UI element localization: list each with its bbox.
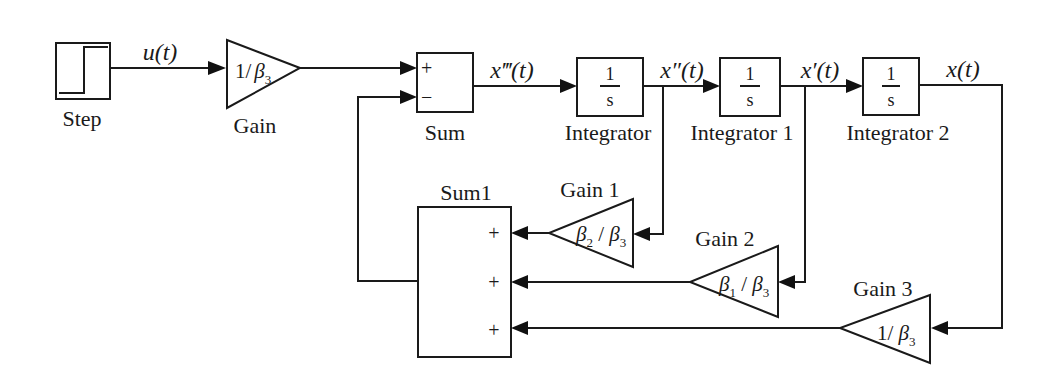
sum1-block[interactable]: Sum1 + + + bbox=[418, 180, 511, 357]
integrator-den: s bbox=[606, 90, 613, 110]
arrowhead-icon bbox=[511, 275, 528, 289]
wire-gain-to-sum bbox=[300, 61, 417, 75]
signal-x3-label: x‴(t) bbox=[489, 57, 533, 83]
signal-u: u(t) bbox=[110, 39, 226, 75]
gain1-value: β2 / β3 bbox=[575, 222, 626, 250]
sum-label: Sum bbox=[425, 120, 465, 145]
signal-u-label: u(t) bbox=[143, 39, 178, 65]
integrator1-den: s bbox=[746, 90, 753, 110]
arrowhead-icon bbox=[931, 321, 948, 335]
arrowhead-icon bbox=[400, 90, 417, 104]
integrator2-den: s bbox=[887, 90, 894, 110]
arrowhead-icon bbox=[846, 79, 863, 93]
integrator1-block[interactable]: 1 s Integrator 1 bbox=[690, 58, 793, 145]
integrator-label: Integrator bbox=[565, 120, 652, 145]
integrator2-label: Integrator 2 bbox=[846, 120, 949, 145]
integrator-num: 1 bbox=[606, 64, 615, 84]
arrowhead-icon bbox=[208, 61, 226, 75]
block-diagram: Step u(t) 1/β3 Gain + − Sum x‴(t) bbox=[0, 0, 1056, 383]
integrator2-num: 1 bbox=[887, 64, 896, 84]
signal-x2: x″(t) bbox=[633, 57, 720, 241]
wire-feedback-to-sum bbox=[358, 90, 418, 281]
arrowhead-icon bbox=[400, 61, 417, 75]
sum-block[interactable]: + − Sum bbox=[417, 53, 473, 145]
signal-x2-label: x″(t) bbox=[659, 57, 703, 83]
gain3-label: Gain 3 bbox=[853, 276, 912, 301]
arrowhead-icon bbox=[511, 321, 528, 335]
gain1-label: Gain 1 bbox=[560, 177, 619, 202]
signal-x1: x′(t) bbox=[778, 57, 863, 289]
signal-x3: x‴(t) bbox=[473, 57, 577, 93]
integrator-block[interactable]: 1 s Integrator bbox=[565, 58, 652, 145]
arrowhead-icon bbox=[633, 227, 650, 241]
arrowhead-icon bbox=[778, 275, 795, 289]
signal-x1-label: x′(t) bbox=[800, 57, 840, 83]
sum1-sign-3: + bbox=[488, 319, 499, 341]
gain2-label: Gain 2 bbox=[695, 226, 754, 251]
integrator1-num: 1 bbox=[746, 64, 755, 84]
signal-x0: x(t) bbox=[919, 56, 1002, 335]
integrator1-label: Integrator 1 bbox=[690, 120, 793, 145]
gain2-block[interactable]: Gain 2 β1 / β3 bbox=[511, 226, 778, 317]
gain2-value: β1 / β3 bbox=[718, 272, 769, 300]
sum-sign-minus: − bbox=[421, 86, 432, 108]
gain2-triangle[interactable] bbox=[690, 246, 778, 317]
gain1-block[interactable]: Gain 1 β2 / β3 bbox=[511, 177, 633, 267]
sum1-sign-2: + bbox=[488, 271, 499, 293]
arrowhead-icon bbox=[560, 79, 577, 93]
integrator2-block[interactable]: 1 s Integrator 2 bbox=[846, 58, 949, 145]
step-label: Step bbox=[62, 106, 101, 131]
arrowhead-icon bbox=[703, 79, 720, 93]
signal-x0-label: x(t) bbox=[945, 56, 979, 82]
sum1-label: Sum1 bbox=[440, 180, 491, 205]
gain1-triangle[interactable] bbox=[549, 199, 633, 267]
sum-sign-plus: + bbox=[421, 57, 432, 79]
step-block[interactable]: Step bbox=[56, 43, 110, 131]
arrowhead-icon bbox=[511, 226, 528, 240]
gain-label: Gain bbox=[234, 113, 277, 138]
sum1-sign-1: + bbox=[488, 222, 499, 244]
gain-block[interactable]: 1/β3 Gain bbox=[227, 40, 300, 138]
